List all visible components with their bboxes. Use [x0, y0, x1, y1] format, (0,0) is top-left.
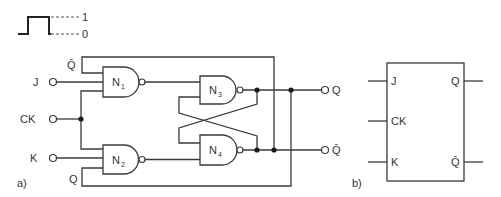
feedback-qbar-label: Q̄ — [67, 59, 76, 71]
feedback-q-label: Q — [69, 173, 78, 185]
q-output-label: Q — [332, 84, 341, 96]
gate-n4: N 4 — [200, 135, 243, 165]
qbar-output-label: Q̄ — [332, 144, 341, 156]
pin-q-label: Q — [451, 75, 460, 87]
svg-text:N: N — [112, 154, 120, 166]
q-output-terminal[interactable] — [322, 87, 329, 94]
circuit-a: N 1 N 2 N 3 N 4 — [17, 57, 341, 189]
pin-qbar-label: Q̄ — [451, 156, 460, 168]
pulse-legend: 1 0 — [18, 11, 88, 40]
svg-text:3: 3 — [218, 91, 222, 98]
ck-junction — [78, 116, 83, 121]
gate-n2: N 2 — [103, 145, 145, 174]
j-label: J — [33, 76, 39, 88]
j-terminal[interactable] — [50, 79, 57, 86]
k-label: K — [30, 152, 38, 164]
legend-low-label: 0 — [82, 28, 88, 40]
pin-k-label: K — [391, 156, 399, 168]
ck-terminal[interactable] — [50, 116, 57, 123]
svg-text:N: N — [112, 76, 120, 88]
k-terminal[interactable] — [50, 155, 57, 162]
pin-ck-label: CK — [391, 115, 407, 127]
gate-n1: N 1 — [103, 67, 145, 97]
legend-high-label: 1 — [82, 11, 88, 23]
gate-n3: N 3 — [200, 76, 243, 104]
svg-text:N: N — [209, 84, 217, 96]
jk-flipflop-diagram: 1 0 N 1 N 2 — [0, 0, 501, 197]
pin-j-label: J — [391, 75, 397, 87]
svg-text:4: 4 — [218, 151, 222, 158]
caption-b: b) — [352, 177, 362, 189]
svg-text:N: N — [209, 144, 217, 156]
symbol-b: J CK K Q Q̄ b) — [352, 63, 483, 189]
svg-text:1: 1 — [121, 83, 125, 90]
ck-label: CK — [20, 113, 36, 125]
qbar-output-terminal[interactable] — [322, 147, 329, 154]
svg-text:2: 2 — [121, 161, 125, 168]
caption-a: a) — [17, 177, 27, 189]
